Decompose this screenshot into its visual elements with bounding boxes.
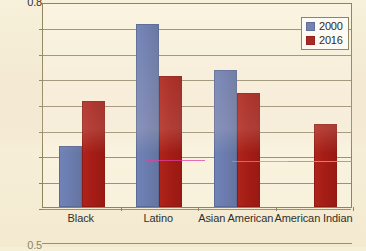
x-tick-mark [198, 207, 199, 211]
y-tick-mark [39, 209, 43, 210]
legend-item-2016[interactable]: 2016 [306, 35, 343, 46]
gridline [43, 209, 351, 210]
x-category-label-american-indian: American Indian [275, 212, 353, 224]
bar-2000-black[interactable] [59, 146, 82, 208]
bar-2000-asian-american[interactable] [214, 70, 237, 207]
x-tick-mark [121, 207, 122, 211]
legend-swatch-icon-2000 [306, 22, 315, 31]
y-tick-label-top-clipped: 0.8 [2, 0, 42, 8]
legend-item-2000[interactable]: 2000 [306, 21, 343, 32]
bar-2000-latino[interactable] [136, 24, 159, 207]
x-category-label-latino: Latino [120, 212, 198, 224]
x-tick-mark [276, 207, 277, 211]
bar-group [121, 4, 199, 207]
legend-label: 2000 [319, 21, 343, 32]
next-chart-tick-label-clipped: 0.5 [2, 239, 42, 251]
bar-2016-latino[interactable] [159, 76, 182, 207]
bar-2016-american-indian[interactable] [314, 124, 337, 207]
x-tick-mark [353, 207, 354, 211]
bar-2016-asian-american[interactable] [237, 93, 260, 207]
legend-label: 2016 [319, 35, 343, 46]
chart-legend: 20002016 [301, 17, 349, 50]
next-chart-top-rule [42, 243, 352, 244]
x-category-label-black: Black [42, 212, 120, 224]
x-category-label-asian-american: Asian American [197, 212, 275, 224]
legend-swatch-icon-2016 [306, 36, 315, 45]
bar-2016-black[interactable] [82, 101, 105, 207]
bar-group [198, 4, 276, 207]
bar-group [43, 4, 121, 207]
